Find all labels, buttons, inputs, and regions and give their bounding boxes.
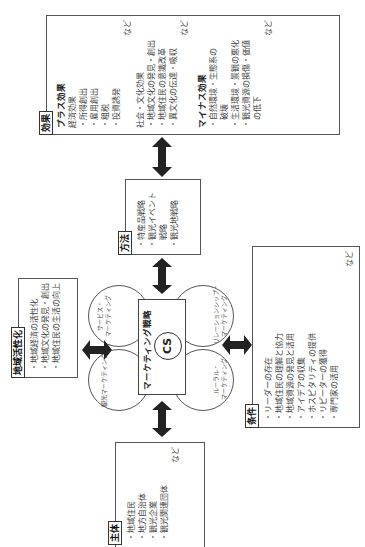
list-item: ・観光関連団体 [159,447,170,541]
list-item: ・所得創出 [78,20,89,128]
list-item: ・投資誘発 [111,20,122,128]
plus-effects-title: プラス効果 [55,20,67,128]
actors-list: ・地域住民 ・地方自治体 ・観光企業 ・観光関連団体 など [126,447,181,541]
etc-label: など [344,251,355,421]
method-box: 方法 ・特産品戦略 ・観光イベント 戦略 ・観光地戦略 [125,179,201,255]
list-item: ・地域住民の理解と協力 [274,251,285,421]
list-item: ・観光企業 [148,447,159,541]
list-item: ・観光資源の損傷・価値 [241,20,252,128]
list-item: ・地域経済の活性化 [29,283,40,371]
list-item: の低下 [252,20,263,128]
double-arrow-icon [82,338,112,362]
list-item: ・自然環境・生態系の [208,20,219,128]
list-item: 戦略 [158,192,169,248]
etc-label: など [179,20,190,128]
double-arrow-icon [150,137,174,177]
list-item: 破壊 [219,20,230,128]
service-marketing-label: サービス・ マーケティング [96,290,112,342]
list-item: ・特産品戦略 [136,192,147,248]
etc-label: など [263,20,274,128]
revitalization-tag: 地域活性化 [11,327,25,378]
list-item: ・観光イベント [147,192,158,248]
social-effects-title: 社会・文化効果 [135,20,146,128]
list-item: ・地域住民 [126,447,137,541]
conditions-box: 条件 ・リーダーの存在 ・地域住民の理解と協力 ・地域資源の発見と活用 ・アイデ… [252,246,360,428]
revitalization-list: ・地域経済の活性化 ・地域文化の発見・創出 ・地域住民の生活の向上 [29,283,62,371]
list-item: ・租税 [100,20,111,128]
double-arrow-icon [150,401,174,437]
list-item: ・リーダーの存在 [263,251,274,421]
double-arrow-icon [222,333,252,357]
actors-tag: 主体 [108,521,122,545]
rural-marketing-label: ルーラル・ マーケティング [212,353,228,405]
list-item: ・地域文化の発見・創出 [146,20,157,128]
list-item: ・アイデアの収集 [296,251,307,421]
revitalization-box: 地域活性化 ・地域経済の活性化 ・地域文化の発見・創出 ・地域住民の生活の向上 [18,278,78,378]
economic-effects-title: 経済効果 [67,20,78,128]
cs-circle: CS [154,332,182,360]
list-item: ・専門家の活用 [329,251,340,421]
effects-box: 効果 プラス効果 経済効果 ・所得創出 ・雇用創出 ・租税 ・投資誘発 など 社… [46,15,340,135]
marketing-strategy-box: マーケティング戦略 CS [138,299,186,395]
marketing-strategy-title: マーケティング戦略 [141,310,153,390]
list-item: ・地方自治体 [137,447,148,541]
conditions-list: ・リーダーの存在 ・地域住民の理解と協力 ・地域資源の発見と活用 ・アイデアの収… [263,251,355,421]
diagram-canvas: 効果 プラス効果 経済効果 ・所得創出 ・雇用創出 ・租税 ・投資誘発 など 社… [0,0,365,547]
double-arrow-icon [150,258,174,294]
effects-tag: 効果 [39,111,53,135]
minus-effects-title: マイナス効果 [196,20,208,128]
list-item: ・雇用創出 [89,20,100,128]
method-tag: 方法 [118,231,132,255]
list-item: ・ホスピタリティの提供 [307,251,318,421]
list-item: ・地域資源の発見と活用 [285,251,296,421]
list-item: ・地域住民の意識改革 [157,20,168,128]
etc-label: など [122,20,133,128]
list-item: ・地域文化の発見・創出 [40,283,51,371]
list-item: ・地域住民の生活の向上 [51,283,62,371]
list-item: ・観光地戦略 [169,192,180,248]
plus-effects: プラス効果 経済効果 ・所得創出 ・雇用創出 ・租税 ・投資誘発 など 社会・文… [55,20,274,128]
list-item: ・異文化の伝達・吸収 [168,20,179,128]
actors-box: 主体 ・地域住民 ・地方自治体 ・観光企業 ・観光関連団体 など [115,442,205,547]
method-list: ・特産品戦略 ・観光イベント 戦略 ・観光地戦略 [136,192,180,248]
etc-label: など [170,447,181,541]
list-item: ・生活環境・景観の悪化 [230,20,241,128]
conditions-tag: 条件 [245,404,259,428]
list-item: ・リピーターの獲得 [318,251,329,421]
